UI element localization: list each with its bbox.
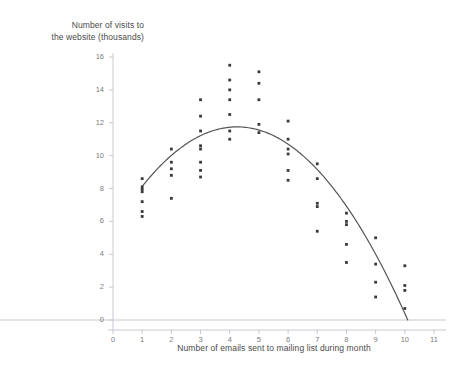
data-point: [258, 82, 261, 85]
data-point: [170, 161, 173, 164]
data-point: [287, 179, 290, 182]
data-point: [141, 190, 144, 193]
data-point: [403, 264, 406, 267]
y-axis-tick-label: 16: [86, 52, 104, 61]
data-point: [228, 64, 231, 67]
data-point: [287, 153, 290, 156]
data-point: [228, 138, 231, 141]
data-point: [374, 263, 377, 266]
data-point: [170, 174, 173, 177]
data-point: [345, 220, 348, 223]
data-point: [199, 98, 202, 101]
data-point: [141, 177, 144, 180]
data-point: [199, 130, 202, 133]
data-point: [170, 197, 173, 200]
data-point: [199, 148, 202, 151]
data-point: [141, 210, 144, 213]
data-point: [199, 144, 202, 147]
y-axis-tick-label: 12: [86, 118, 104, 127]
data-point: [199, 115, 202, 118]
data-point: [345, 223, 348, 226]
data-point: [287, 120, 290, 123]
data-point: [374, 281, 377, 284]
data-point: [316, 205, 319, 208]
y-axis-tick-label: 4: [86, 249, 104, 258]
data-point: [141, 188, 144, 191]
data-point: [258, 123, 261, 126]
data-point: [199, 161, 202, 164]
data-point: [199, 176, 202, 179]
data-point: [287, 148, 290, 151]
fit-curve: [142, 127, 408, 320]
data-point: [199, 169, 202, 172]
data-point: [287, 138, 290, 141]
data-point: [316, 230, 319, 233]
data-point-group: [141, 64, 406, 310]
y-axis-tick-label: 10: [86, 151, 104, 160]
data-point: [170, 167, 173, 170]
y-axis-tick-label: 14: [86, 85, 104, 94]
data-point: [316, 202, 319, 205]
data-point: [258, 131, 261, 134]
data-point: [170, 148, 173, 151]
x-axis-title: Number of emails sent to mailing list du…: [113, 343, 435, 353]
y-axis-tick-label: 8: [86, 184, 104, 193]
data-point: [403, 284, 406, 287]
data-point: [403, 307, 406, 310]
y-axis-tick-label: 0: [86, 315, 104, 324]
scatter-plot-figure: Number of visits to the website (thousan…: [0, 0, 471, 373]
data-point: [345, 243, 348, 246]
data-point: [258, 70, 261, 73]
data-point: [374, 296, 377, 299]
data-point: [228, 98, 231, 101]
data-point: [228, 88, 231, 91]
data-point: [316, 162, 319, 165]
data-point: [374, 236, 377, 239]
data-point: [141, 185, 144, 188]
data-point: [141, 215, 144, 218]
data-point: [287, 169, 290, 172]
data-point: [228, 79, 231, 82]
plot-area: [0, 0, 471, 373]
data-point: [345, 261, 348, 264]
data-point: [403, 289, 406, 292]
data-point: [345, 212, 348, 215]
data-point: [258, 98, 261, 101]
data-point: [228, 130, 231, 133]
data-point: [316, 177, 319, 180]
data-point: [141, 200, 144, 203]
data-point: [228, 113, 231, 116]
y-axis-tick-label: 2: [86, 282, 104, 291]
y-axis-tick-label: 6: [86, 216, 104, 225]
